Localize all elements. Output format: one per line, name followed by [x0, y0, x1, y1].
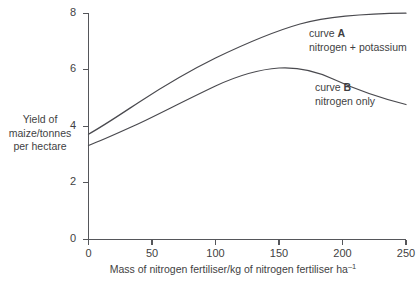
- y-tick-label-8: 8: [58, 6, 76, 18]
- x-tick-label-200: 200: [323, 247, 363, 259]
- y-tick-label-0: 0: [58, 232, 76, 244]
- x-tick-label-50: 50: [132, 247, 172, 259]
- x-tick-label-150: 150: [259, 247, 299, 259]
- chart-figure: 0 2 4 6 8 0 50 100 150 200 250 Yield of …: [0, 0, 419, 282]
- y-tick-label-2: 2: [58, 175, 76, 187]
- curve-a-prefix: curve: [309, 27, 338, 39]
- x-axis-title-text: Mass of nitrogen fertiliser/kg of nitrog…: [110, 263, 348, 275]
- x-tick-label-100: 100: [196, 247, 236, 259]
- curve-a-subtitle: nitrogen + potassium: [309, 41, 407, 55]
- y-tick-marks: [83, 14, 89, 240]
- y-axis-title-line-3: per hectare: [2, 140, 78, 154]
- x-axis-title: Mass of nitrogen fertiliser/kg of nitrog…: [60, 263, 406, 275]
- curve-b-prefix: curve: [315, 81, 344, 93]
- y-tick-label-6: 6: [58, 62, 76, 74]
- x-tick-marks: [89, 240, 407, 246]
- x-axis-title-superscript: –1: [348, 262, 356, 271]
- curve-a-annotation: curve A nitrogen + potassium: [309, 27, 407, 54]
- curve-a-letter: A: [338, 27, 346, 39]
- y-axis-title: Yield of maize/tonnes per hectare: [2, 113, 78, 154]
- curve-b-letter: B: [344, 81, 352, 93]
- y-axis-title-line-1: Yield of: [2, 113, 78, 127]
- x-tick-label-250: 250: [386, 247, 419, 259]
- x-tick-label-0: 0: [69, 247, 109, 259]
- curve-a-label-line: curve A: [309, 27, 407, 41]
- curve-b-annotation: curve B nitrogen only: [315, 81, 375, 108]
- curve-b-subtitle: nitrogen only: [315, 95, 375, 109]
- y-axis-title-line-2: maize/tonnes: [2, 127, 78, 141]
- curve-b-label-line: curve B: [315, 81, 375, 95]
